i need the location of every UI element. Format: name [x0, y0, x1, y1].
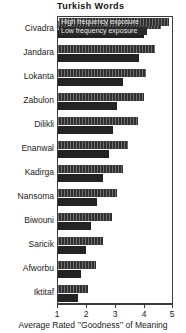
bar-group — [58, 165, 172, 182]
bar — [58, 165, 123, 173]
x-axis-tick-label: 2 — [84, 309, 89, 319]
bar — [58, 261, 96, 269]
chart-title: Turkish Words — [57, 1, 124, 11]
bar — [58, 45, 155, 53]
bar — [58, 78, 123, 86]
x-axis-tick — [144, 304, 145, 308]
bar-group — [58, 189, 172, 206]
bar-group — [58, 117, 172, 134]
y-axis-tick-label: Jandara — [0, 47, 54, 57]
plot-frame: High frequency exposureLow frequency exp… — [57, 16, 173, 304]
bar — [58, 174, 103, 182]
x-axis-tick-label: 3 — [113, 309, 118, 319]
y-axis-tick-label: Afworbu — [0, 263, 54, 273]
bar — [58, 270, 81, 278]
x-axis-tick-label: 1 — [55, 309, 60, 319]
bar — [58, 285, 88, 293]
y-axis-tick-label: Lokanta — [0, 71, 54, 81]
y-axis-tick-label: Enanwal — [0, 143, 54, 153]
y-axis-tick-label: Biwouni — [0, 215, 54, 225]
bar-group — [58, 285, 172, 302]
bar — [58, 222, 91, 230]
bar — [58, 117, 138, 125]
bar — [58, 150, 109, 158]
bar — [58, 213, 112, 221]
bar — [58, 54, 139, 62]
bar — [58, 189, 117, 197]
x-axis-tick-label: 4 — [142, 309, 147, 319]
bar — [58, 246, 86, 254]
y-axis-tick-label: Dilikli — [0, 119, 54, 129]
bar-group — [58, 45, 172, 62]
x-axis-tick — [115, 304, 116, 308]
y-axis-tick-label: Nansoma — [0, 191, 54, 201]
bar — [58, 294, 78, 302]
plot-area — [58, 17, 172, 303]
x-axis-tick — [86, 304, 87, 308]
legend-label: Low frequency exposure — [61, 27, 137, 35]
bar-group — [58, 261, 172, 278]
x-axis-tick — [57, 304, 58, 308]
y-axis-tick-label: Saricik — [0, 239, 54, 249]
bar — [58, 93, 144, 101]
chart-figure: Turkish Words CivadraJandaraLokantaZabul… — [0, 0, 186, 333]
x-axis-tick-label: 5 — [170, 309, 175, 319]
bar-group — [58, 69, 172, 86]
y-axis-tick-label: Kadirga — [0, 167, 54, 177]
bar-group — [58, 141, 172, 158]
bar-group — [58, 237, 172, 254]
bar — [58, 141, 128, 149]
x-axis-label: Average Rated ’’Goodness’’ of Meaning — [0, 320, 186, 330]
bar — [58, 198, 97, 206]
bar — [58, 237, 103, 245]
bar — [58, 69, 146, 77]
bar — [58, 126, 113, 134]
y-axis-tick-label: Civadra — [0, 23, 54, 33]
x-axis-tick — [172, 304, 173, 308]
bar-group — [58, 93, 172, 110]
legend-label: High frequency exposure — [61, 18, 139, 26]
y-axis-category-labels: CivadraJandaraLokantaZabulonDilikliEnanw… — [0, 16, 54, 304]
bar — [58, 102, 117, 110]
bar-group — [58, 213, 172, 230]
y-axis-tick-label: Iktitaf — [0, 287, 54, 297]
y-axis-tick-label: Zabulon — [0, 95, 54, 105]
